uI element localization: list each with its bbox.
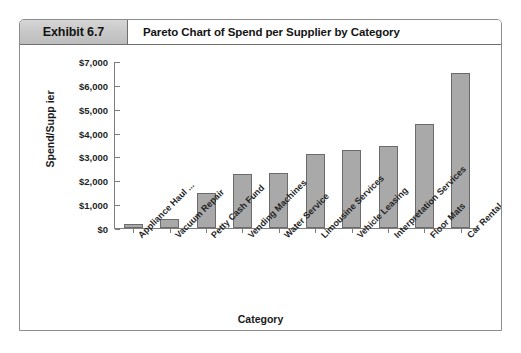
- exhibit-title-label: Pareto Chart of Spend per Supplier by Ca…: [143, 26, 400, 38]
- y-axis-tick-label: $1,000: [79, 200, 115, 211]
- y-axis-tick-label: $6,000: [79, 80, 115, 91]
- bar[interactable]: [160, 219, 179, 228]
- exhibit-title-box: Pareto Chart of Spend per Supplier by Ca…: [128, 20, 501, 44]
- y-axis-tick-label: $5,000: [79, 104, 115, 115]
- exhibit-frame: Exhibit 6.7 Pareto Chart of Spend per Su…: [19, 19, 502, 331]
- y-axis-tick-label: $4,000: [79, 128, 115, 139]
- chart-body: Spend/Supp ier $7,000$6,000$5,000$4,000$…: [20, 45, 501, 330]
- y-axis-tick-label: $2,000: [79, 176, 115, 187]
- y-axis-tick-label: $0: [97, 224, 115, 235]
- exhibit-number-label: Exhibit 6.7: [43, 25, 104, 39]
- bar-slot: [115, 62, 151, 228]
- exhibit-number-box: Exhibit 6.7: [20, 20, 128, 44]
- x-axis-category-labels: Appliance Haul ...Vacuum RepairPetty Cas…: [114, 231, 479, 321]
- exhibit-header: Exhibit 6.7 Pareto Chart of Spend per Su…: [20, 20, 501, 45]
- y-axis-tick-label: $7,000: [79, 57, 115, 68]
- y-axis-title: Spend/Supp ier: [44, 69, 56, 189]
- y-axis-tick-mark: [115, 229, 120, 230]
- x-axis-title: Category: [20, 313, 501, 325]
- y-axis-tick-label: $3,000: [79, 152, 115, 163]
